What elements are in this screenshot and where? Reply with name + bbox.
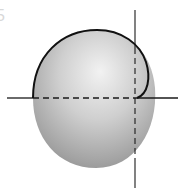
sphere — [33, 30, 155, 168]
sphere-diagram — [0, 0, 183, 191]
